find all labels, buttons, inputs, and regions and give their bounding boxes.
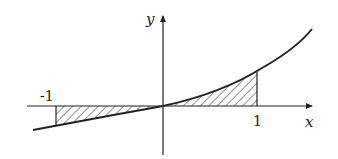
graph-figure: y x -1 1	[0, 0, 338, 159]
y-axis-label: y	[145, 10, 155, 28]
tick-label-neg-one: -1	[40, 88, 54, 104]
x-axis-label: x	[305, 113, 314, 131]
tick-label-one: 1	[253, 113, 262, 129]
shaded-region-right	[163, 72, 257, 106]
